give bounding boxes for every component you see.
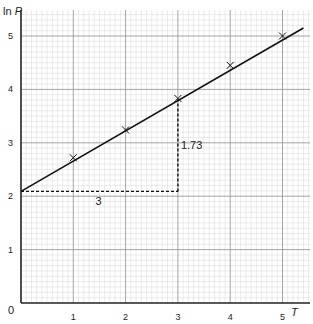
rise-label: 1.73 (181, 139, 202, 151)
x-axis-label: T (291, 306, 299, 318)
x-tick-label: 5 (280, 312, 285, 322)
y-tick-label: 5 (8, 31, 13, 41)
minor-grid (21, 10, 310, 303)
line-chart: ln P T 0 3 1.73 1234512345 (0, 0, 313, 324)
y-axis-label-variable: P (15, 5, 23, 17)
x-tick-label: 3 (175, 312, 180, 322)
y-tick-label: 4 (8, 84, 13, 94)
y-tick-label: 1 (8, 245, 13, 255)
y-tick-label: 3 (8, 138, 13, 148)
y-axis-label: ln P (3, 5, 23, 17)
origin-label: 0 (8, 304, 14, 316)
run-label: 3 (95, 195, 101, 207)
x-tick-label: 2 (123, 312, 128, 322)
x-tick-label: 1 (71, 312, 76, 322)
y-tick-label: 2 (8, 191, 13, 201)
x-tick-label: 4 (228, 312, 233, 322)
